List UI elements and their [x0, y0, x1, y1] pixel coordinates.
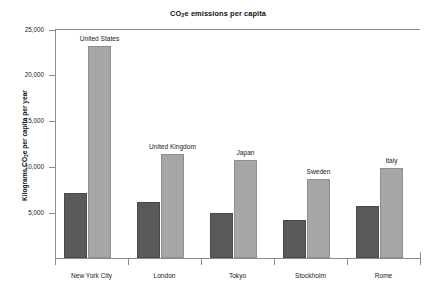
x-axis-tick: [128, 259, 129, 265]
chart-title: CO2e emissions per capita: [0, 9, 436, 18]
y-axis-tick: [49, 121, 55, 122]
y-axis-tick: [49, 75, 55, 76]
y-axis-tick-label: 25,000: [25, 26, 44, 33]
bar-city-rome: [356, 206, 379, 258]
y-axis-tick: [49, 30, 55, 31]
y-axis-tick-label: 15,000: [25, 117, 44, 124]
bar-country-stockholm: [307, 179, 330, 259]
y-axis-tick-label: 5,000: [28, 209, 44, 216]
chart-figure: CO2e emissions per capita Kilograms CO2e…: [0, 0, 436, 304]
bar-value-label: Sweden: [269, 168, 369, 175]
bar-country-new-york-city: [88, 46, 111, 259]
bar-country-tokyo: [234, 160, 257, 259]
bar-value-label: Japan: [196, 149, 296, 156]
x-axis-tick: [55, 259, 56, 265]
bar-city-tokyo: [210, 213, 233, 259]
bar-city-new-york-city: [64, 193, 87, 259]
bar-value-label: United States: [50, 35, 150, 42]
x-axis-tick: [201, 259, 202, 265]
bar-country-london: [161, 154, 184, 258]
x-axis-tick: [347, 259, 348, 265]
y-axis-tick-label: 10,000: [25, 163, 44, 170]
y-axis-tick: [49, 167, 55, 168]
y-axis-title: Kilograms CO2e per capita per year: [21, 61, 28, 231]
y-axis-tick: [49, 213, 55, 214]
bar-city-london: [137, 202, 160, 259]
x-axis-end-cap: [420, 252, 421, 259]
y-axis-tick-label: 20,000: [25, 71, 44, 78]
bar-city-stockholm: [283, 220, 306, 258]
x-axis-tick-label: Rome: [339, 272, 429, 279]
bar-value-label: Italy: [342, 157, 436, 164]
x-axis-tick: [420, 259, 421, 265]
bar-country-rome: [380, 168, 403, 259]
x-axis-tick: [274, 259, 275, 265]
